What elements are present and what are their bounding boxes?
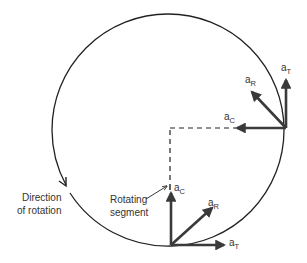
direction-label-line2: of rotation bbox=[17, 205, 61, 216]
segment-pointer-arrow bbox=[146, 186, 167, 199]
label-aC-bottom: aC bbox=[174, 182, 186, 196]
vector-aR-right bbox=[252, 92, 286, 128]
bottom-point-vectors bbox=[171, 193, 224, 245]
circular-motion-diagram: aT aR aC aC aR aT Direction of rotation … bbox=[0, 0, 307, 263]
label-aR-right: aR bbox=[245, 74, 257, 88]
right-point-vectors bbox=[237, 80, 286, 128]
segment-label-line2: segment bbox=[110, 207, 149, 218]
label-aC-right: aC bbox=[224, 111, 236, 125]
radius-lines bbox=[170, 128, 236, 182]
label-aT-bottom: aT bbox=[229, 237, 240, 251]
label-aT-right: aT bbox=[281, 62, 292, 76]
direction-label-line1: Direction bbox=[22, 192, 61, 203]
segment-label-line1: Rotating bbox=[110, 194, 147, 205]
rotation-circle bbox=[52, 14, 284, 246]
